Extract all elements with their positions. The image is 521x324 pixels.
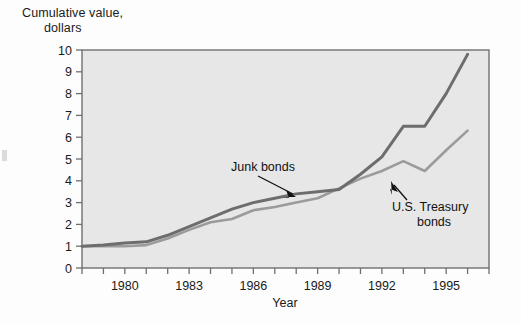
x-axis-tick-label: 1980 [111, 279, 139, 293]
y-axis-tick-label: 6 [65, 131, 72, 145]
annotation-junk-bonds-label: Junk bonds [231, 160, 295, 174]
chart-figure: Cumulative value, dollars 012345678910 1… [0, 0, 521, 324]
y-axis-tick-label: 3 [65, 196, 72, 210]
x-axis-tick-label: 1995 [432, 279, 460, 293]
annotation-us-treasury-label-line2: bonds [417, 215, 451, 229]
y-axis-tick-label: 7 [65, 109, 72, 123]
y-axis-tick-label: 2 [65, 218, 72, 232]
y-axis-tick-label: 9 [65, 65, 72, 79]
x-axis-tick-label: 1986 [239, 279, 267, 293]
y-axis-tick-label: 8 [65, 87, 72, 101]
y-axis-tick-label: 10 [58, 44, 72, 58]
x-axis-tick-label: 1983 [175, 279, 203, 293]
annotation-us-treasury-label-line1: U.S. Treasury [392, 200, 469, 214]
y-axis-tick-label: 1 [65, 240, 72, 254]
y-axis-tick-label: 0 [65, 262, 72, 276]
x-axis-ticks: 198019831986198919921995 [82, 268, 489, 293]
plot-area: 012345678910 198019831986198919921995 Ju… [0, 0, 521, 324]
y-axis-tick-label: 4 [65, 174, 72, 188]
plot-background [82, 50, 489, 268]
x-axis-tick-label: 1992 [368, 279, 396, 293]
y-axis-tick-label: 5 [65, 153, 72, 167]
x-axis-title: Year [272, 296, 297, 310]
x-axis-tick-label: 1989 [304, 279, 332, 293]
y-axis-ticks: 012345678910 [58, 44, 82, 276]
